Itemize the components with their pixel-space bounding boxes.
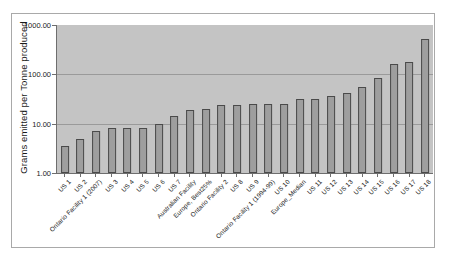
bar[interactable] — [155, 124, 163, 173]
x-axis-tick — [252, 174, 253, 177]
bar-slot — [292, 25, 308, 173]
bar[interactable] — [186, 110, 194, 173]
bar-slot — [261, 25, 277, 173]
x-axis-tick — [362, 174, 363, 177]
chart-figure: Grams emitted per Tonne produced 1000.00… — [0, 0, 449, 263]
x-axis-tick — [409, 174, 410, 177]
y-axis-tick-label: 1.00 — [5, 169, 51, 178]
bar[interactable] — [327, 96, 335, 173]
bar[interactable] — [77, 139, 85, 173]
bar[interactable] — [202, 109, 210, 173]
y-axis-tick-label: 10.00 — [5, 119, 51, 128]
y-axis-tick — [52, 173, 56, 174]
x-axis-tick — [299, 174, 300, 177]
bar[interactable] — [421, 39, 429, 173]
x-axis-tick — [315, 174, 316, 177]
x-axis-tick — [95, 174, 96, 177]
y-axis-tick-label: 1000.00 — [5, 21, 51, 30]
bar-slot — [73, 25, 89, 173]
bar-series — [57, 25, 433, 173]
x-axis-tick — [205, 174, 206, 177]
bar[interactable] — [249, 104, 257, 173]
bar-slot — [120, 25, 136, 173]
x-axis-tick — [377, 174, 378, 177]
x-axis-tick — [330, 174, 331, 177]
x-axis-tick — [80, 174, 81, 177]
bar-slot — [151, 25, 167, 173]
bar-slot — [276, 25, 292, 173]
x-axis-tick — [268, 174, 269, 177]
bar-slot — [323, 25, 339, 173]
bar[interactable] — [343, 93, 351, 173]
bar[interactable] — [124, 128, 132, 173]
bar-slot — [355, 25, 371, 173]
bar[interactable] — [218, 105, 226, 173]
bar[interactable] — [171, 116, 179, 173]
x-axis-tick — [346, 174, 347, 177]
bar-slot — [57, 25, 73, 173]
bar[interactable] — [61, 146, 69, 173]
y-axis-tick-label: 100.00 — [5, 70, 51, 79]
bar[interactable] — [280, 104, 288, 173]
bar-slot — [339, 25, 355, 173]
bar-slot — [88, 25, 104, 173]
bar-slot — [370, 25, 386, 173]
bar[interactable] — [233, 105, 241, 173]
x-axis-tick — [236, 174, 237, 177]
y-axis-tick — [52, 25, 56, 26]
x-axis-tick — [158, 174, 159, 177]
bar[interactable] — [108, 128, 116, 173]
bar-slot — [402, 25, 418, 173]
bar-slot — [308, 25, 324, 173]
bar[interactable] — [374, 78, 382, 173]
bar-slot — [229, 25, 245, 173]
plot-area — [56, 25, 433, 173]
x-axis-tick — [111, 174, 112, 177]
x-axis-tick — [64, 174, 65, 177]
x-axis-tick — [283, 174, 284, 177]
bar[interactable] — [359, 87, 367, 173]
y-axis-tick — [52, 74, 56, 75]
x-axis-tick — [174, 174, 175, 177]
bar-slot — [245, 25, 261, 173]
bar[interactable] — [406, 62, 414, 173]
y-axis-tick-labels: 1000.00100.0010.001.00 — [3, 0, 51, 263]
bar-slot — [386, 25, 402, 173]
bar-slot — [417, 25, 433, 173]
bar[interactable] — [139, 128, 147, 173]
y-axis-tick — [52, 124, 56, 125]
x-axis-tick — [127, 174, 128, 177]
bar-slot — [167, 25, 183, 173]
bar[interactable] — [296, 99, 304, 173]
bar[interactable] — [265, 104, 273, 173]
x-axis-tick — [189, 174, 190, 177]
x-axis-tick — [424, 174, 425, 177]
bar[interactable] — [92, 131, 100, 173]
bar-slot — [182, 25, 198, 173]
bar-slot — [214, 25, 230, 173]
x-axis-tick — [221, 174, 222, 177]
bar-slot — [198, 25, 214, 173]
bar-slot — [104, 25, 120, 173]
bar[interactable] — [390, 64, 398, 173]
bar-slot — [135, 25, 151, 173]
x-axis-tick — [393, 174, 394, 177]
bar[interactable] — [312, 99, 320, 173]
x-axis-tick — [142, 174, 143, 177]
